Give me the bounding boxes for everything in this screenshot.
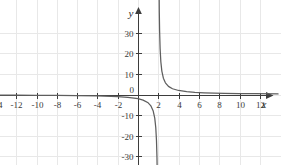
x-tick-label: 6 xyxy=(197,100,202,110)
plot-background xyxy=(0,0,281,165)
y-tick-label: 30 xyxy=(125,29,135,39)
x-tick-label: 4 xyxy=(177,100,182,110)
x-tick-label: -8 xyxy=(54,100,62,110)
origin-label: 0 xyxy=(130,85,135,95)
x-tick-label: -6 xyxy=(74,100,82,110)
y-tick-label: -30 xyxy=(122,152,134,162)
y-tick-label: -10 xyxy=(122,111,134,121)
x-tick-label: -12 xyxy=(11,100,23,110)
y-axis-label: y xyxy=(128,7,134,19)
x-axis-label: x xyxy=(261,98,267,110)
x-tick-label: 8 xyxy=(217,100,222,110)
graph-canvas: -14-12-10-8-6-4-224681012 302010-10-20-3… xyxy=(0,0,281,165)
x-tick-label: -2 xyxy=(115,100,123,110)
x-tick-label: 2 xyxy=(156,100,161,110)
hyperbola-graph: -14-12-10-8-6-4-224681012 302010-10-20-3… xyxy=(0,0,281,165)
x-tick-label: -4 xyxy=(94,100,102,110)
x-tick-label: -10 xyxy=(32,100,44,110)
y-tick-label: 20 xyxy=(125,49,135,59)
x-tick-label: 10 xyxy=(236,100,246,110)
y-tick-label: -20 xyxy=(122,132,134,142)
y-tick-label: 10 xyxy=(125,70,135,80)
